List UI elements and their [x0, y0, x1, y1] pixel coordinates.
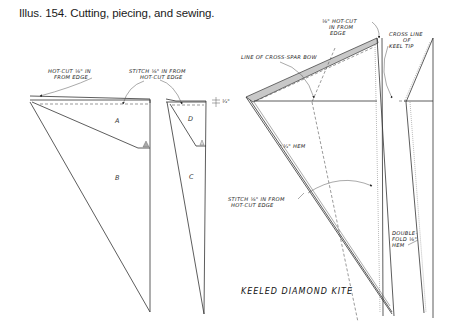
hot-cut-label-line3: EDGE [330, 30, 346, 36]
diagram-title: KEELED DIAMOND KITE [241, 287, 353, 296]
keel-outline [399, 38, 433, 318]
piece-label-c: C [189, 173, 194, 181]
piece-cd-outline [166, 99, 206, 314]
sail-outline [246, 38, 394, 322]
stitch-label-line2: HOT-CUT EDGE [140, 74, 183, 80]
hem-label: ¼" HEM [283, 143, 306, 149]
piece-label-a: A [114, 117, 119, 125]
piece-label-b: B [115, 174, 120, 182]
right-panel-keeled-diamond: ⅛" HOT-CUT IN FROM EDGE CROSS LINE OF KE… [228, 18, 433, 322]
stitch-label-line2: HOT-CUT EDGE [231, 202, 274, 208]
kite-diagram: A B D C ¼" HOT-CUT ⅛" IN FROM EDGE STITC… [0, 0, 451, 328]
hot-cut-label-line2: FROM EDGE [54, 74, 88, 80]
dimension-label: ¼" [222, 98, 230, 104]
cross-line-label-line3: KEEL TIP [389, 43, 414, 49]
stitch-leader-arrow-a [123, 81, 144, 104]
piece-label-d: D [188, 115, 193, 123]
left-panel-cutting: A B D C ¼" HOT-CUT ⅛" IN FROM EDGE STITC… [30, 68, 230, 314]
piece-ab-outline [30, 96, 150, 312]
stitch-leader-tick [298, 193, 304, 199]
cross-line-leader-arrow [384, 46, 392, 98]
hot-cut-leader-arrow [40, 78, 92, 96]
cross-spar-label: LINE OF CROSS-SPAR BOW [241, 54, 317, 60]
stitch-leader-arrow [308, 180, 372, 193]
quarter-inch-dimension: ¼" [212, 97, 230, 107]
hot-cut-leader-arrow [372, 22, 379, 38]
double-fold-label-line3: HEM [392, 242, 405, 248]
